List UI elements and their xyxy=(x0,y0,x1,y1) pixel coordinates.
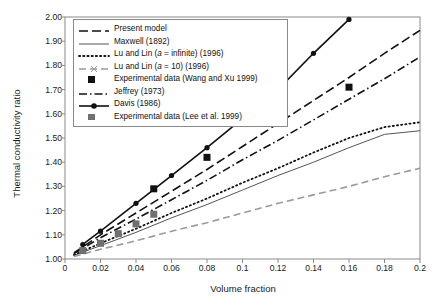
legend-label: Maxwell (1892) xyxy=(114,36,170,48)
chart-legend: Present modelMaxwell (1892)Lu and Lin (a… xyxy=(73,19,288,127)
series-line xyxy=(74,131,420,256)
legend-label: Davis (1986) xyxy=(114,98,160,110)
series-marker xyxy=(346,17,351,22)
legend-label: Lu and Lin (a = 10) (1996) xyxy=(114,61,209,73)
legend-label: Experimental data (Lee et al. 1999) xyxy=(114,111,242,123)
legend-item[interactable]: Maxwell (1892) xyxy=(77,36,283,49)
legend-label: Experimental data (Wang and Xu 1999) xyxy=(114,73,258,85)
legend-symbol xyxy=(77,36,111,48)
series-marker xyxy=(80,242,85,247)
legend-label: Jeffrey (1973) xyxy=(114,86,164,98)
series-marker xyxy=(169,173,174,178)
legend-label: Lu and Lin (a = infinite) (1996) xyxy=(114,48,223,60)
scatter-marker xyxy=(97,240,104,247)
scatter-marker xyxy=(346,84,353,91)
legend-item[interactable]: Lu and Lin (a = 10) (1996) xyxy=(77,61,283,74)
legend-square-icon xyxy=(88,114,95,121)
scatter-marker xyxy=(79,247,86,254)
series-marker xyxy=(311,51,316,56)
legend-item[interactable]: Experimental data (Wang and Xu 1999) xyxy=(77,73,283,86)
legend-symbol xyxy=(77,48,111,60)
series-marker xyxy=(133,201,138,206)
scatter-marker xyxy=(115,230,122,237)
series-line xyxy=(74,168,420,256)
legend-label: Present model xyxy=(114,23,167,35)
series-marker xyxy=(98,229,103,234)
series-marker xyxy=(204,145,209,150)
legend-item[interactable]: Jeffrey (1973) xyxy=(77,86,283,99)
scatter-marker xyxy=(150,211,157,218)
scatter-marker xyxy=(204,154,211,161)
legend-item[interactable]: Present model xyxy=(77,23,283,36)
legend-item[interactable]: Lu and Lin (a = infinite) (1996) xyxy=(77,48,283,61)
chart-figure: Thermal conductivity ratio Volume fracti… xyxy=(0,0,442,306)
legend-symbol xyxy=(77,61,111,73)
legend-item[interactable]: Experimental data (Lee et al. 1999) xyxy=(77,111,283,124)
scatter-marker xyxy=(133,220,140,227)
legend-item[interactable]: Davis (1986) xyxy=(77,98,283,111)
legend-symbol xyxy=(77,98,111,110)
legend-square-icon xyxy=(88,76,95,83)
legend-symbol xyxy=(77,23,111,35)
legend-symbol xyxy=(77,111,111,123)
legend-symbol xyxy=(77,73,111,85)
scatter-marker xyxy=(150,185,157,192)
legend-symbol xyxy=(77,86,111,98)
